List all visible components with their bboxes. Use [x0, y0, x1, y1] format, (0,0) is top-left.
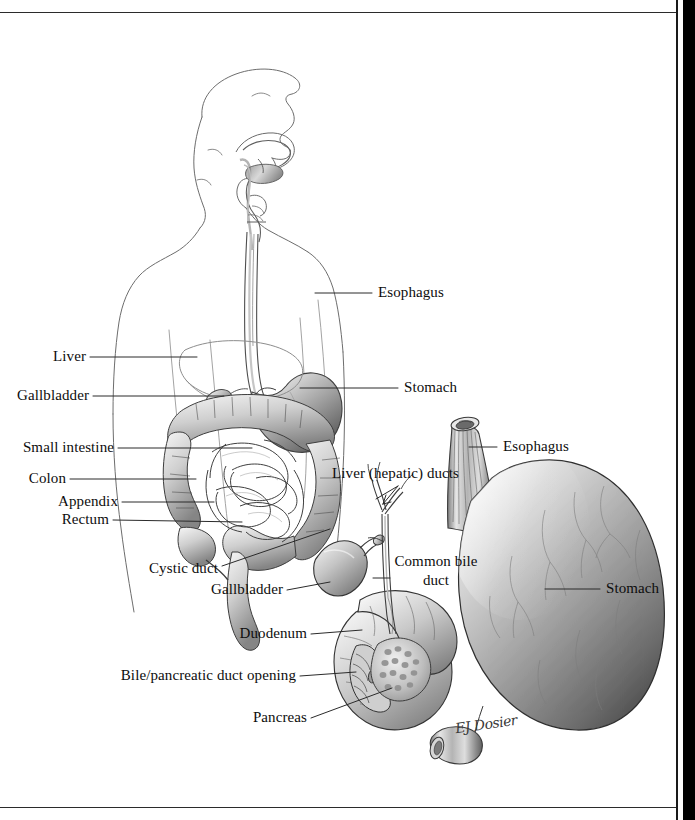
body-outline [113, 69, 345, 612]
small-intestine-upper [206, 440, 304, 542]
label-stomach-detail: Stomach [606, 580, 659, 597]
label-liver: Liver [0, 348, 86, 365]
label-pancreas: Pancreas [90, 709, 307, 726]
leader-rectum [113, 520, 242, 522]
arrowhead-hepatic-ducts [383, 495, 391, 504]
label-gallbladder: Gallbladder [0, 387, 89, 404]
label-esophagus-detail: Esophagus [503, 438, 569, 455]
page-top-rule [0, 12, 678, 13]
label-colon: Colon [0, 470, 66, 487]
leader-cystic-duct [222, 529, 330, 566]
label-small-intestine: Small intestine [0, 439, 114, 456]
gallbladder-detail-art [314, 533, 387, 596]
anatomy-artwork [0, 0, 695, 820]
biliary-tree [368, 462, 413, 634]
leader-lines [0, 0, 695, 820]
leader-pancreas [311, 688, 392, 718]
label-cystic-duct: Cystic duct [90, 560, 218, 577]
illustration-page: EJ Dosier [0, 0, 695, 820]
liver-outline-upper [179, 341, 302, 401]
gallbladder-upper [204, 386, 248, 411]
page-bottom-rule [0, 807, 678, 808]
label-rectum: Rectum [0, 511, 109, 528]
leader-hepatic-ducts [383, 486, 398, 504]
label-gallbladder-detail: Gallbladder [90, 581, 283, 598]
leader-bile-pancreatic [300, 672, 356, 676]
scan-gutter-black [683, 0, 695, 820]
label-common-bile-duct-line2: duct [423, 572, 449, 588]
label-stomach-upper: Stomach [404, 379, 457, 396]
leader-duodenum [311, 630, 362, 634]
pancreas-detail [371, 638, 431, 701]
label-liver-hepatic-ducts: Liver (hepatic) ducts [332, 465, 459, 482]
label-duodenum: Duodenum [90, 625, 307, 642]
label-common-bile-duct: Common bile [394, 553, 477, 569]
colon-upper [163, 395, 340, 651]
leader-gallbladder-detail [287, 582, 330, 590]
duodenum-detail [334, 591, 457, 730]
esophagus-upper [245, 232, 264, 396]
label-bile-pancreatic-duct-opening: Bile/pancreatic duct opening [30, 667, 296, 684]
pharynx-oral-cavity [236, 133, 294, 250]
label-appendix: Appendix [0, 493, 118, 510]
artist-signature: EJ Dosier [454, 712, 518, 736]
label-esophagus-upper: Esophagus [378, 284, 444, 301]
colon-haustra [170, 397, 340, 532]
stomach-detail [440, 440, 695, 760]
stomach-upper [228, 373, 342, 452]
